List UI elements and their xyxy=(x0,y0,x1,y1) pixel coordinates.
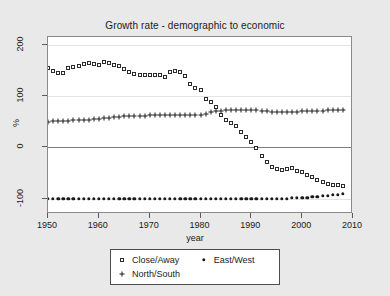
data-point xyxy=(336,193,339,196)
data-point xyxy=(341,192,344,195)
data-point xyxy=(260,154,264,158)
data-point xyxy=(158,197,161,200)
data-point xyxy=(214,197,217,200)
data-point xyxy=(265,160,269,164)
x-tick-label: 1980 xyxy=(189,220,209,230)
data-point xyxy=(305,173,309,177)
data-point xyxy=(107,61,111,65)
data-point xyxy=(255,197,258,200)
y-tick-label: 200 xyxy=(15,24,25,64)
data-point xyxy=(62,197,65,200)
data-point xyxy=(189,197,192,200)
zero-line xyxy=(48,147,351,148)
data-point xyxy=(199,88,203,92)
x-tick-mark xyxy=(301,213,302,218)
data-point xyxy=(183,74,187,78)
data-point xyxy=(199,197,202,200)
data-point xyxy=(117,197,120,200)
data-point xyxy=(188,82,192,86)
data-point xyxy=(239,130,243,134)
data-point xyxy=(326,182,330,186)
data-point xyxy=(234,124,238,128)
data-point xyxy=(285,167,289,171)
data-point xyxy=(47,197,50,200)
data-point xyxy=(209,197,212,200)
data-point xyxy=(123,197,126,200)
data-point xyxy=(77,64,81,68)
gridline xyxy=(48,45,351,46)
data-point xyxy=(254,146,258,150)
data-point xyxy=(102,60,106,64)
data-point xyxy=(82,62,86,66)
data-point xyxy=(229,121,233,125)
legend-label: North/South xyxy=(132,269,180,279)
data-point xyxy=(173,197,176,200)
data-point xyxy=(143,73,147,77)
data-point xyxy=(239,197,242,200)
data-point xyxy=(321,194,324,197)
gridline xyxy=(48,96,351,97)
data-point xyxy=(143,197,146,200)
data-point xyxy=(229,197,232,200)
x-tick-mark xyxy=(250,213,251,218)
data-point xyxy=(107,197,110,200)
data-point xyxy=(72,197,75,200)
open-square-icon xyxy=(117,256,127,264)
legend-item-close-away: Close/Away xyxy=(117,255,199,265)
data-point xyxy=(270,197,273,200)
data-point xyxy=(280,168,284,172)
x-tick-mark xyxy=(149,213,150,218)
data-point xyxy=(290,166,294,170)
y-tick-label: -100 xyxy=(15,178,25,218)
data-point xyxy=(133,197,136,200)
data-point xyxy=(148,73,152,77)
data-point xyxy=(82,197,85,200)
data-point xyxy=(87,61,91,65)
y-tick-label: 0 xyxy=(15,126,25,166)
data-point xyxy=(336,183,340,187)
data-point xyxy=(67,197,70,200)
legend-row: North/South xyxy=(117,267,273,281)
data-point xyxy=(92,62,96,66)
chart-title: Growth rate - demographic to economic xyxy=(0,20,390,31)
data-point xyxy=(280,197,283,200)
data-point xyxy=(163,197,166,200)
data-point xyxy=(158,73,162,77)
x-axis-title: year xyxy=(0,233,390,243)
x-tick-label: 1960 xyxy=(88,220,108,230)
data-point xyxy=(300,170,304,174)
data-point xyxy=(244,135,248,139)
data-point xyxy=(51,69,55,73)
data-point xyxy=(204,197,207,200)
x-tick-mark xyxy=(200,213,201,218)
data-point xyxy=(331,193,334,196)
data-point xyxy=(153,197,156,200)
data-point xyxy=(122,67,126,71)
data-point xyxy=(138,197,141,200)
data-point xyxy=(66,66,70,70)
data-point xyxy=(340,108,345,113)
data-point xyxy=(56,197,59,200)
data-point xyxy=(71,65,75,69)
data-point xyxy=(153,73,157,77)
data-point xyxy=(51,197,54,200)
filled-circle-icon xyxy=(199,256,209,264)
data-point xyxy=(138,73,142,77)
data-point xyxy=(204,97,208,101)
data-point xyxy=(87,197,90,200)
data-point xyxy=(224,118,228,122)
data-point xyxy=(245,197,248,200)
x-tick-label: 2010 xyxy=(342,220,362,230)
data-point xyxy=(132,72,136,76)
data-point xyxy=(92,197,95,200)
x-tick-mark xyxy=(98,213,99,218)
legend-label: Close/Away xyxy=(132,255,179,265)
data-point xyxy=(285,197,288,200)
data-point xyxy=(234,197,237,200)
plot-area xyxy=(47,36,352,213)
x-tick-mark xyxy=(352,213,353,218)
data-point xyxy=(148,197,151,200)
data-point xyxy=(117,64,121,68)
data-point xyxy=(97,197,100,200)
data-point xyxy=(97,63,101,67)
